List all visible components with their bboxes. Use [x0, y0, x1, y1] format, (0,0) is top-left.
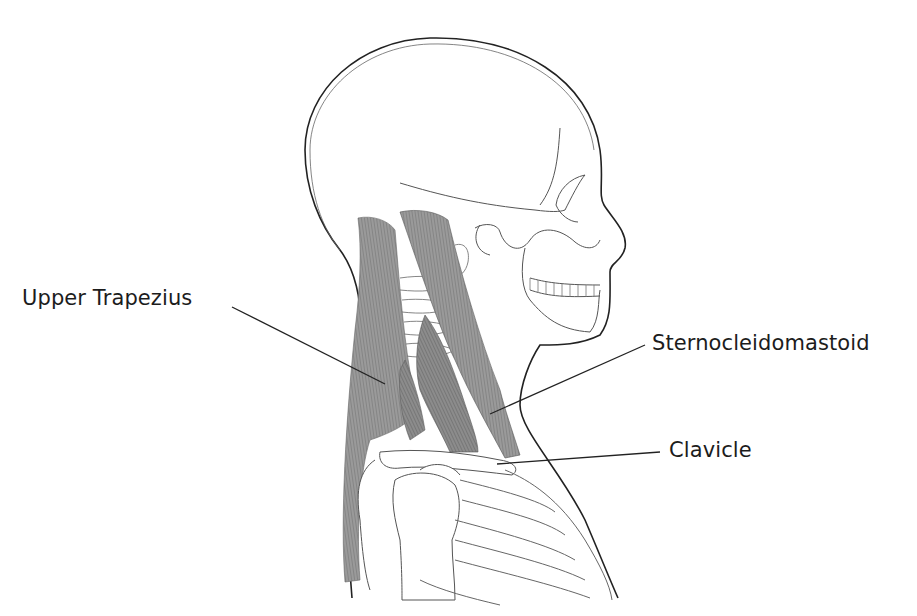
label-upper-trapezius: Upper Trapezius	[22, 286, 192, 310]
leader-line-sternocleidomastoid	[490, 345, 645, 414]
leader-line-clavicle	[497, 452, 660, 464]
label-clavicle: Clavicle	[669, 438, 752, 462]
label-sternocleidomastoid: Sternocleidomastoid	[652, 331, 870, 355]
anatomy-diagram: Upper Trapezius Sternocleidomastoid Clav…	[0, 0, 917, 616]
shoulder-bones	[358, 460, 460, 600]
